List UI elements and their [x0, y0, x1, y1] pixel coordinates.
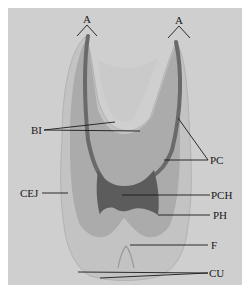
label-apex-left: A [83, 13, 91, 25]
label-bi: BI [31, 124, 42, 136]
label-pc: PC [210, 154, 223, 166]
label-pch: PCH [211, 189, 232, 201]
label-ph: PH [213, 209, 227, 221]
label-f: F [211, 239, 217, 251]
label-cu: CU [209, 267, 224, 279]
label-apex-right: A [175, 14, 183, 26]
tooth-diagram: A A BI PC CEJ PCH PH F CU [0, 0, 249, 295]
apex-right-leader [168, 26, 190, 38]
tooth-inner-region [98, 58, 158, 122]
label-cej: CEJ [20, 187, 39, 199]
